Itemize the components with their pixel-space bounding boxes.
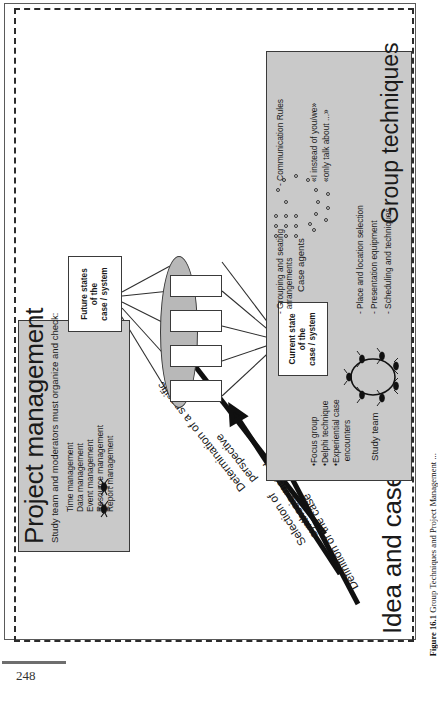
figure-rotation-wrapper: Project management Study team and modera… [0, 0, 430, 648]
gt-item-experiential: •Experiential case [332, 399, 341, 466]
study-team-circle-icon-pm [68, 480, 126, 538]
folio-rule [2, 661, 66, 664]
future-state-label: Future states of the case / system [80, 256, 110, 332]
gt-item-presentation: - Presentation equipment [370, 220, 379, 314]
gt-communication-title: - Communication Rules [276, 99, 285, 186]
gt-item-place: - Place and location selection [356, 205, 365, 314]
synthesis-method-1 [170, 380, 222, 402]
study-team-circle-icon [340, 346, 402, 408]
figure-caption: Figure 16.1 Group Techniques and Project… [428, 453, 438, 656]
group-techniques-title: Group techniques [378, 42, 404, 224]
case-agents-label: Case agents [296, 238, 307, 292]
synthesis-method-2 [170, 345, 222, 367]
gt-item-focus-group: •Focus group [310, 417, 319, 467]
synthesis-method-4 [170, 275, 222, 297]
study-team-label: Study team [370, 412, 381, 461]
gt-grouping-label: - Grouping and seating arrangements [276, 229, 295, 314]
gt-rule-i-instead: «I instead of you/we» [310, 103, 319, 182]
figure-caption-text: Group Techniques and Project Management … [428, 453, 438, 613]
gt-item-experiential-cont: encounters [343, 420, 352, 466]
synthesis-method-3 [170, 310, 222, 332]
figure-caption-label: Figure 16.1 [428, 615, 438, 656]
page-number: 248 [16, 668, 36, 684]
project-management-title: Project management [20, 308, 49, 544]
gt-rule-only-talk: «only talk about ...» [322, 109, 331, 182]
gt-item-delphi: •Delphi technique [321, 401, 330, 466]
gt-item-scheduling: - Scheduling and techniques [384, 208, 393, 314]
project-management-subtitle: Study team and moderators must organize … [50, 313, 61, 543]
figure-canvas: Project management Study team and modera… [10, 4, 420, 644]
